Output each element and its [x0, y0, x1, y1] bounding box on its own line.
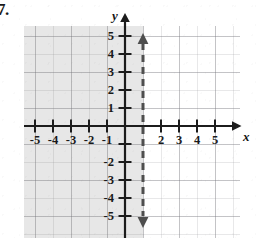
y-axis-arrowhead	[120, 13, 130, 22]
x-tick-label--5: -5	[27, 134, 43, 147]
x-tick-label--1: -1	[99, 134, 115, 147]
x-tick-label--4: -4	[45, 134, 61, 147]
problem-number-label: 7.	[0, 1, 9, 18]
axes-and-boundary-line	[0, 0, 256, 238]
y-tick-label-2: 2	[96, 84, 114, 97]
x-tick-label--2: -2	[81, 134, 97, 147]
x-tick-label-2: 2	[154, 134, 168, 147]
x-axis-arrowhead	[232, 121, 242, 131]
boundary-arrowhead-down	[138, 217, 149, 228]
x-tick-label-5: 5	[208, 134, 222, 147]
y-tick-label--4: -4	[94, 192, 114, 205]
inequality-graph-figure: 7.	[0, 0, 256, 238]
x-tick-label-4: 4	[190, 134, 204, 147]
y-tick-label--3: -3	[94, 174, 114, 187]
y-tick-label-3: 3	[96, 66, 114, 79]
boundary-arrowhead-up	[138, 33, 149, 44]
x-axis-label: x	[243, 130, 250, 143]
y-tick-label-5: 5	[96, 30, 114, 43]
y-tick-label-1: 1	[96, 102, 114, 115]
x-tick-label--3: -3	[63, 134, 79, 147]
x-tick-label-3: 3	[172, 134, 186, 147]
y-tick-label-4: 4	[96, 48, 114, 61]
y-tick-label--2: -2	[94, 156, 114, 169]
y-axis-label: y	[112, 9, 118, 22]
y-tick-label--5: -5	[94, 210, 114, 223]
